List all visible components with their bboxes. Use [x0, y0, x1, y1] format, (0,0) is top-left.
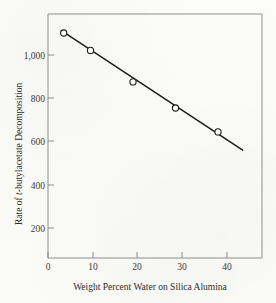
- y-axis-ticks: [48, 55, 54, 228]
- data-point-5: [215, 129, 221, 135]
- y-tick-label-200: 200: [31, 224, 46, 234]
- x-tick-label-30: 30: [177, 262, 187, 272]
- scatter-chart: 1,000 800 600 400 200 0 10 20 30 40: [0, 0, 276, 303]
- x-tick-label-40: 40: [222, 262, 232, 272]
- x-axis-title-group: Weight Percent Water on Silica Alumina: [73, 282, 227, 292]
- figure-page: 1,000 800 600 400 200 0 10 20 30 40: [0, 0, 276, 303]
- x-tick-label-10: 10: [88, 262, 98, 272]
- y-axis-tick-labels: 1,000 800 600 400 200: [24, 51, 46, 234]
- x-axis-ticks: [48, 252, 227, 258]
- y-axis-title-part2: -butylacetate Decomposition: [14, 83, 24, 193]
- y-tick-label-600: 600: [31, 137, 46, 147]
- x-axis-title: Weight Percent Water on Silica Alumina: [73, 282, 227, 292]
- y-tick-label-1000: 1,000: [24, 51, 46, 61]
- plot-frame: [48, 14, 262, 258]
- x-axis-tick-labels: 0 10 20 30 40: [46, 262, 232, 272]
- data-point-3: [130, 79, 136, 85]
- x-tick-label-20: 20: [132, 262, 142, 272]
- y-tick-label-400: 400: [31, 181, 46, 191]
- y-axis-title-part1: Rate of: [14, 195, 24, 225]
- x-tick-label-0: 0: [46, 262, 51, 272]
- data-point-1: [61, 30, 67, 36]
- y-axis-title-group: Rate of t-butylacetate Decomposition: [14, 83, 24, 225]
- y-axis-title: Rate of t-butylacetate Decomposition: [14, 83, 24, 225]
- y-tick-label-800: 800: [31, 94, 46, 104]
- data-point-2: [87, 47, 93, 53]
- data-point-4: [172, 105, 178, 111]
